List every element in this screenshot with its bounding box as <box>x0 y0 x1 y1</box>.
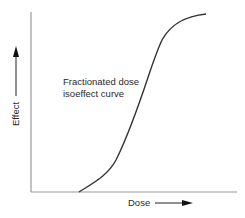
isoeffect-curve <box>79 14 206 192</box>
arrow-up-icon <box>13 46 19 57</box>
arrow-right-icon <box>182 200 193 206</box>
annotation-line-2: isoeffect curve <box>63 88 124 99</box>
annotation-line-1: Fractionated dose <box>63 76 139 87</box>
dose-effect-diagram: Effect Dose Fractionated dose isoeffect … <box>0 0 245 218</box>
y-axis-label: Effect <box>10 102 21 126</box>
x-axis-label: Dose <box>128 197 150 208</box>
